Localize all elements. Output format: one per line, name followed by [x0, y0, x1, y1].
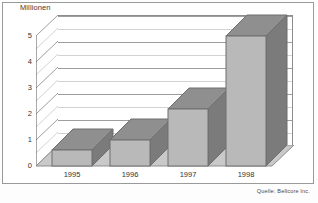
- chart-figure: Millionen: [0, 0, 318, 203]
- x-tick-label-1997: 1997: [168, 170, 208, 179]
- plot-area: 0 1 2 3 4 5: [0, 0, 318, 203]
- bar-1996: [110, 0, 150, 166]
- y-tick-label-4: 4: [6, 57, 32, 66]
- x-tick-label-1995: 1995: [52, 170, 92, 179]
- y-tick-label-5: 5: [6, 31, 32, 40]
- x-tick-label-1996: 1996: [110, 170, 150, 179]
- y-tick-label-0: 0: [6, 161, 32, 170]
- y-tick-label-1: 1: [6, 135, 32, 144]
- y-tick-label-2: 2: [6, 109, 32, 118]
- bar-1998: [226, 0, 266, 166]
- source-caption: Quelle: Bellcore Inc.: [257, 188, 310, 194]
- bar-1997: [168, 0, 208, 166]
- x-tick-label-1998: 1998: [226, 170, 266, 179]
- bar-1995: [52, 0, 92, 166]
- y-tick-label-3: 3: [6, 83, 32, 92]
